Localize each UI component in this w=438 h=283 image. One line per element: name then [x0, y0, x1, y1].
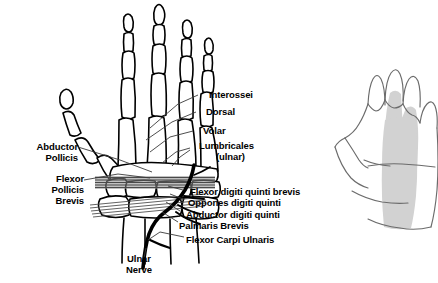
label-flexor-carpi-ulnaris: Flexor Carpi Ulnaris	[186, 234, 274, 245]
ulnar-territory-shading-palm	[382, 117, 418, 229]
label-abductor-pollicis-line1: Abductor	[0, 141, 78, 152]
index-finger-bones	[121, 14, 135, 119]
label-dorsal: Dorsal	[206, 106, 235, 117]
label-flexor-digiti-quinti-brevis: Flexor digiti quinti brevis	[190, 186, 300, 197]
label-palmaris-brevis: Palmaris Brevis	[179, 220, 249, 231]
label-flexor-pollicis-brevis-line3: Brevis	[0, 195, 84, 206]
middle-finger-bones	[151, 5, 166, 118]
figure-canvas: Interossei Dorsal Volar Lumbricales (uln…	[0, 0, 438, 283]
label-lumbricales: Lumbricales	[199, 140, 254, 151]
ring-finger-bones	[179, 20, 193, 120]
label-abductor-digiti-quinti: Abductor digiti quinti	[186, 209, 280, 220]
label-ulnar-nerve-line2: Nerve	[104, 264, 174, 275]
hand-outline-diagram	[335, 70, 438, 230]
label-abductor-pollicis-line2: Pollicis	[0, 152, 78, 163]
label-oppones-digiti-quinti: Oppones digiti quinti	[188, 197, 281, 208]
label-ulnar-nerve-line1: Ulnar	[104, 253, 174, 264]
label-volar: Volar	[203, 125, 226, 136]
label-flexor-pollicis-brevis-line1: Flexor	[0, 173, 84, 184]
label-lumbricales-qualifier: (ulnar)	[216, 151, 245, 162]
label-flexor-pollicis-brevis-line2: Pollicis	[0, 184, 84, 195]
label-interossei: Interossei	[209, 89, 253, 100]
